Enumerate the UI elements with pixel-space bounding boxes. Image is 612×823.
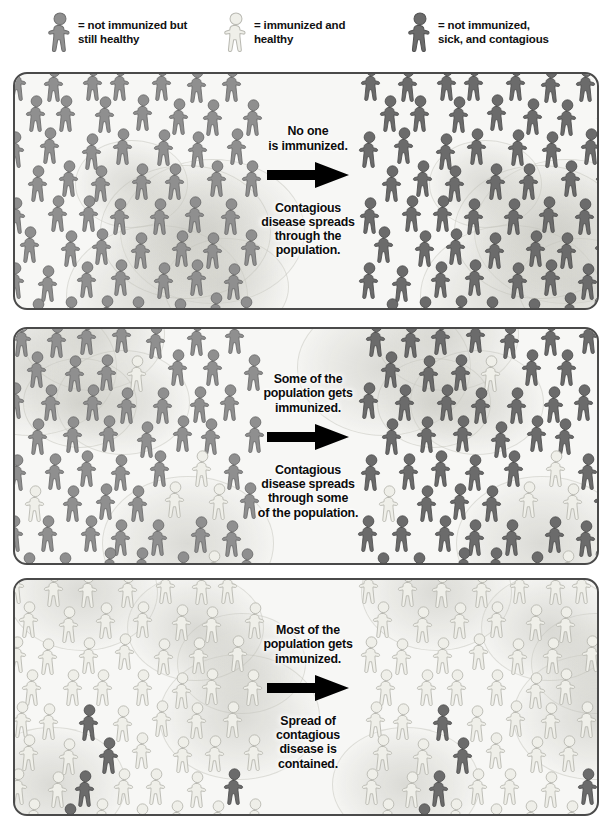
person-unimmunized-figure xyxy=(168,298,193,310)
crowd-after-some-immunization xyxy=(369,329,597,563)
person-immunized-figure xyxy=(396,578,421,607)
person-immunized-figure xyxy=(113,633,138,670)
person-immunized-figure xyxy=(508,578,533,604)
person-unimmunized-figure xyxy=(77,195,102,232)
legend-unimmunized-healthy: = not immunized but still healthy xyxy=(46,12,187,52)
person-immunized-figure xyxy=(484,732,509,769)
person-immunized-figure xyxy=(90,798,115,816)
person-unimmunized-figure xyxy=(183,196,208,233)
person-immunized-figure xyxy=(359,636,384,673)
legend-label: = not immunized, sick, and contagious xyxy=(438,12,549,46)
panel-content: Some of the population gets immunized.Co… xyxy=(15,329,597,563)
legend-label: = not immunized but still healthy xyxy=(78,12,187,46)
person-immunized-figure xyxy=(444,798,469,816)
person-immunized-figure xyxy=(364,701,389,738)
person-unimmunized-figure xyxy=(59,296,84,310)
person-immunized-figure xyxy=(130,803,155,816)
person-sick-figure xyxy=(574,72,599,102)
person-sick-figure xyxy=(392,127,417,164)
person-sick-figure xyxy=(412,803,437,816)
panel-some-immunization: Some of the population gets immunized.Co… xyxy=(13,327,599,565)
person-unimmunized-figure xyxy=(36,515,61,552)
person-immunized-figure xyxy=(42,578,67,607)
person-sick-figure xyxy=(431,195,456,232)
person-immunized-figure xyxy=(557,735,582,772)
person-unimmunized-figure xyxy=(205,160,230,197)
person-unimmunized-figure xyxy=(18,226,43,263)
person-immunized-figure xyxy=(13,636,30,673)
person-unimmunized-figure xyxy=(13,515,27,552)
person-sick-figure xyxy=(539,259,564,296)
person-sick-figure xyxy=(379,351,404,388)
legend-sick-contagious: = not immunized, sick, and contagious xyxy=(406,12,549,52)
person-immunized-figure xyxy=(130,732,155,769)
person-unimmunized-figure xyxy=(111,128,136,165)
person-unimmunized-figure xyxy=(189,516,214,553)
person-sick-figure xyxy=(485,94,510,131)
cause-text: Most of the population gets immunized. xyxy=(263,623,352,666)
person-sick-figure xyxy=(577,327,599,354)
person-immunized-figure xyxy=(539,702,564,739)
person-immunized-figure xyxy=(544,578,569,605)
person-sick-figure xyxy=(594,160,599,197)
person-sick-figure xyxy=(429,261,454,298)
person-immunized-figure xyxy=(185,702,210,739)
person-unimmunized-figure xyxy=(240,160,265,197)
right-arrow-icon xyxy=(265,673,351,707)
person-immunized-figure xyxy=(152,638,177,675)
person-sick-figure xyxy=(58,803,83,816)
person-unimmunized-figure xyxy=(53,552,78,565)
person-immunized-figure xyxy=(597,798,599,816)
person-sick-figure xyxy=(356,515,381,552)
person-sick-figure xyxy=(357,382,382,419)
person-sick-figure xyxy=(451,415,476,452)
person-immunized-figure xyxy=(597,602,599,639)
person-sick-figure xyxy=(597,416,599,453)
person-unimmunized-figure xyxy=(13,262,28,299)
person-sick-figure xyxy=(484,163,509,200)
person-immunized-figure xyxy=(560,800,585,816)
legend: = not immunized but still healthy= immun… xyxy=(0,0,612,62)
person-immunized-figure xyxy=(580,635,599,672)
person-unimmunized-figure xyxy=(234,296,259,310)
person-immunized-figure xyxy=(22,798,47,816)
person-sick-figure xyxy=(506,262,531,299)
person-immunized-figure xyxy=(485,601,510,638)
person-unimmunized-figure xyxy=(218,384,243,421)
person-sick-figure xyxy=(506,129,531,166)
person-immunized-figure xyxy=(200,668,225,705)
person-immunized-figure xyxy=(524,604,549,641)
person-unimmunized-figure xyxy=(171,415,196,452)
panel-most-immunization: Most of the population gets immunized.Sp… xyxy=(13,578,599,816)
person-immunized-figure xyxy=(171,736,196,773)
person-immunized-figure xyxy=(544,450,569,487)
panel-caption-no-immunization: No one is immunized.Contagious disease s… xyxy=(249,74,367,308)
crowd-before-no-immunization xyxy=(15,74,243,308)
person-sick-figure xyxy=(463,259,488,296)
person-unimmunized-figure xyxy=(75,450,100,487)
person-immunized-figure xyxy=(203,735,228,772)
person-unimmunized-figure xyxy=(95,295,120,310)
person-unimmunized-figure xyxy=(130,547,155,565)
person-immunized-figure xyxy=(165,800,190,816)
person-unimmunized-figure xyxy=(61,416,86,453)
person-unimmunized-figure xyxy=(131,94,156,131)
person-sick-figure xyxy=(429,327,454,355)
person-sick-figure xyxy=(357,262,382,299)
person-unimmunized-figure xyxy=(109,259,134,296)
panel-no-immunization: No one is immunized.Contagious disease s… xyxy=(13,72,599,310)
person-sick-figure xyxy=(572,384,597,421)
person-unimmunized-figure xyxy=(126,485,151,522)
legend-immunized-healthy: = immunized and healthy xyxy=(222,12,345,52)
person-sick-figure xyxy=(480,485,505,522)
person-immunized-figure xyxy=(170,604,195,641)
person-immunized-figure xyxy=(243,798,268,816)
person-immunized-figure xyxy=(466,768,491,805)
person-unimmunized-figure xyxy=(75,261,100,298)
person-unimmunized-figure xyxy=(243,416,268,453)
person-unimmunized-figure xyxy=(126,296,151,310)
person-sick-figure xyxy=(589,548,599,565)
person-immunized-figure xyxy=(517,481,542,518)
person-sick-figure xyxy=(484,547,509,565)
person-sick-figure xyxy=(371,552,396,565)
